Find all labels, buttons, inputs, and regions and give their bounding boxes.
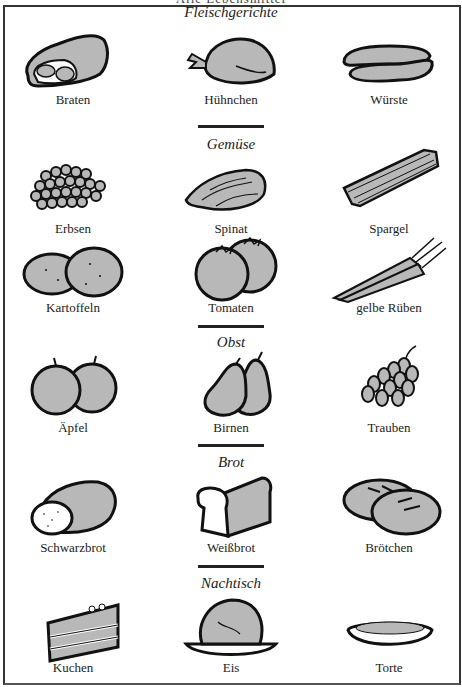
dark-bread-icon: [8, 470, 138, 540]
item-label: Torte: [314, 660, 462, 676]
item-label: Brötchen: [314, 540, 462, 556]
section-title-fleischgerichte: Fleischgerichte: [0, 4, 462, 21]
item-label: gelbe Rüben: [314, 300, 462, 316]
ice-cream-icon: [166, 592, 296, 662]
section-divider: [198, 125, 264, 128]
peas-icon: [8, 152, 138, 222]
item-label: Trauben: [314, 420, 462, 436]
white-bread-icon: [166, 468, 296, 538]
item-label: Schwarzbrot: [0, 540, 148, 556]
carrots-icon: [324, 228, 454, 298]
chicken-icon: [166, 22, 296, 92]
pears-icon: [166, 348, 296, 418]
item-label: Birnen: [156, 420, 306, 436]
section-divider: [198, 565, 264, 568]
section-divider: [198, 444, 264, 447]
potatoes-icon: [8, 236, 138, 306]
item-label: Äpfel: [0, 420, 148, 436]
tomatoes-icon: [166, 232, 296, 302]
roast-meat-icon: [8, 24, 138, 94]
spinach-icon: [166, 150, 296, 220]
item-label: Kuchen: [0, 660, 148, 676]
cake-icon: [8, 595, 138, 665]
section-divider: [198, 325, 264, 328]
section-title-nachtisch: Nachtisch: [0, 575, 462, 592]
item-label: Braten: [0, 92, 148, 108]
sausages-icon: [324, 22, 454, 92]
item-label: Eis: [156, 660, 306, 676]
item-label: Hühnchen: [156, 92, 306, 108]
pie-icon: [324, 594, 454, 664]
item-label: Erbsen: [0, 221, 148, 237]
item-label: Kartoffeln: [0, 300, 148, 316]
apples-icon: [8, 350, 138, 420]
grapes-icon: [324, 346, 454, 416]
asparagus-icon: [324, 140, 454, 210]
bread-rolls-icon: [324, 470, 454, 540]
item-label: Würste: [314, 92, 462, 108]
item-label: Weißbrot: [156, 540, 306, 556]
item-label: Tomaten: [156, 300, 306, 316]
